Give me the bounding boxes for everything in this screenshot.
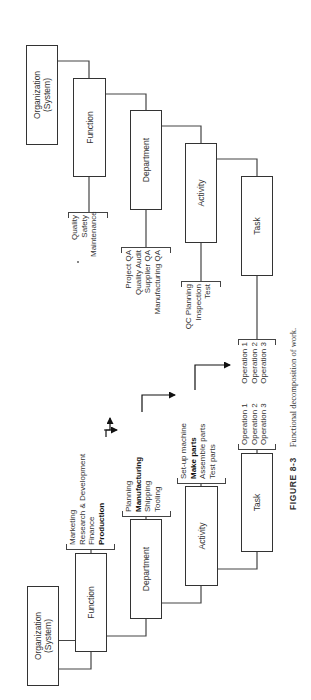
functional-decomposition-diagram: Organization (System) Function Departmen… (0, 0, 311, 700)
figure-label: FIGURE 8-3 (288, 457, 298, 510)
connector-lines (0, 0, 311, 700)
figure-caption: FIGURE 8-3Functional decomposition of wo… (288, 328, 298, 510)
figure-caption-text: Functional decomposition of work. (288, 328, 298, 447)
